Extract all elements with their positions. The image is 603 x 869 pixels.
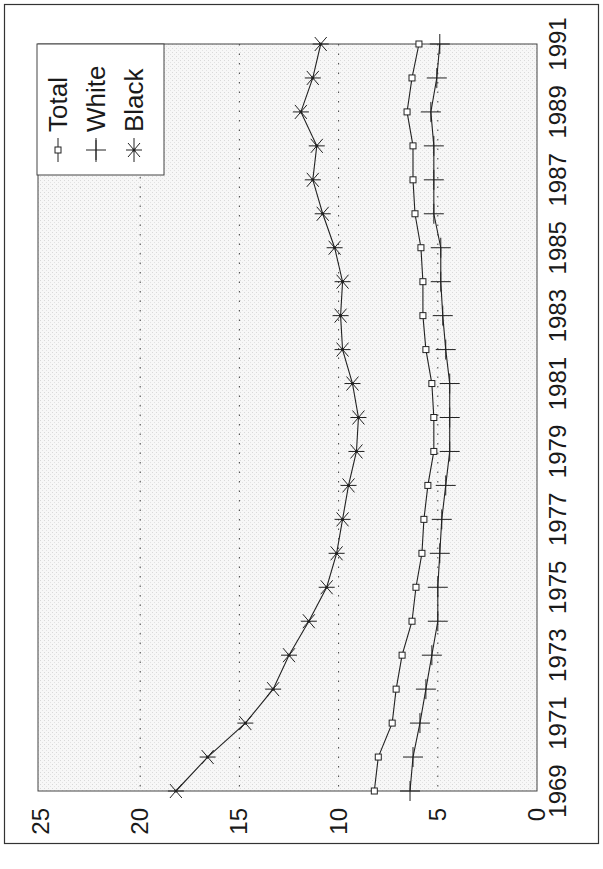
square-marker-icon [371,788,377,794]
value-tick-label: 25 [27,808,54,835]
square-marker-icon [425,482,431,488]
square-marker-icon [423,347,429,353]
year-tick-label: 1973 [544,628,571,681]
value-tick-label: 5 [424,808,451,821]
legend-label: Total [43,77,73,132]
year-tick-label: 1985 [544,221,571,274]
value-tick-label: 20 [126,808,153,835]
square-marker-icon [418,245,424,251]
year-tick-label: 1971 [544,696,571,749]
square-marker-icon [393,686,399,692]
chart-container: 0510152025 19691971197319751977197919811… [0,0,603,869]
square-marker-icon [409,618,415,624]
year-tick-label: 1987 [544,153,571,206]
square-marker-icon [413,584,419,590]
legend-label: White [81,66,111,132]
year-tick-label: 1977 [544,493,571,546]
square-marker-icon [389,720,395,726]
year-tick-label: 1983 [544,289,571,342]
square-marker-icon [410,143,416,149]
square-marker-icon [421,516,427,522]
legend-label: Black [119,67,149,132]
legend: TotalWhiteBlack [37,44,164,175]
square-marker-icon [399,652,405,658]
value-tick-label: 10 [325,808,352,835]
square-marker-icon [55,147,61,153]
year-tick-label: 1969 [544,764,571,817]
year-tick-label: 1979 [544,425,571,478]
square-marker-icon [409,75,415,81]
square-marker-icon [431,415,437,421]
year-tick-label: 1991 [544,17,571,70]
year-tick-label: 1975 [544,561,571,614]
square-marker-icon [375,754,381,760]
square-marker-icon [429,381,435,387]
square-marker-icon [419,550,425,556]
square-marker-icon [416,41,422,47]
square-marker-icon [404,109,410,115]
square-marker-icon [420,279,426,285]
square-marker-icon [412,211,418,217]
square-marker-icon [420,313,426,319]
value-tick-label: 15 [225,808,252,835]
square-marker-icon [431,448,437,454]
square-marker-icon [410,177,416,183]
line-chart: 0510152025 19691971197319751977197919811… [0,0,603,869]
year-tick-label: 1989 [544,85,571,138]
year-tick-label: 1981 [544,357,571,410]
